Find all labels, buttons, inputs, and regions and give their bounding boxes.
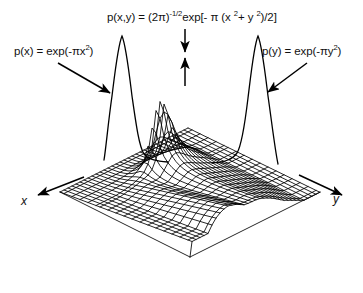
marginal-y-tail: )	[338, 45, 342, 57]
joint-formula-part4: )/2]	[261, 11, 277, 23]
joint-formula-part2: exp[- π (x	[182, 11, 234, 23]
axis-label-x: x	[21, 195, 27, 208]
gaussian-figure	[0, 0, 363, 293]
joint-formula-part1: p(x,y) = (2π)	[107, 11, 170, 23]
joint-formula-part3: + y	[238, 11, 256, 23]
joint-density-formula-label: p(x,y) = (2π)-1/2exp[- π (x 2+ y 2)/2]	[107, 11, 277, 23]
marginal-x-lhs: p(x) = exp(-πx	[14, 45, 85, 57]
marginal-x-formula-label: p(x) = exp(-πx2)	[14, 45, 93, 57]
marginal-y-lhs: p(y) = exp(-πy	[262, 45, 333, 57]
marginal-y-formula-label: p(y) = exp(-πy2)	[262, 45, 341, 57]
marginal-x-tail: )	[90, 45, 94, 57]
joint-formula-exponent: -1/2	[170, 9, 183, 18]
axis-label-y: y	[333, 193, 339, 206]
